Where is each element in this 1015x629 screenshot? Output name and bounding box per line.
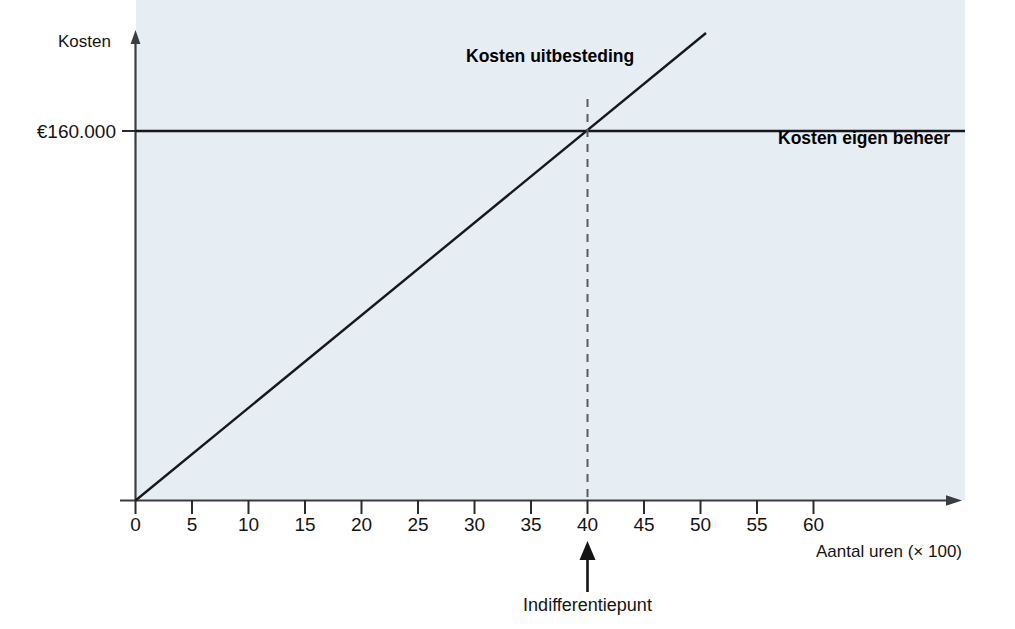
x-tick-label-45: 45 (633, 514, 654, 535)
y-axis-title: Kosten (58, 32, 111, 51)
x-tick-label-5: 5 (187, 514, 198, 535)
label-kosten-eigen-beheer: Kosten eigen beheer (778, 128, 950, 148)
x-axis-ticks (136, 500, 814, 514)
indifference-point-label: Indifferentiepunt (523, 595, 652, 615)
cost-comparison-chart: 0 5 10 15 20 25 30 35 40 45 50 55 60 €16… (0, 0, 1015, 629)
indifference-arrow-icon (580, 541, 596, 592)
x-tick-label-20: 20 (351, 514, 372, 535)
x-tick-label-30: 30 (464, 514, 485, 535)
x-tick-label-55: 55 (746, 514, 767, 535)
plot-background (136, 0, 965, 500)
chart-svg: 0 5 10 15 20 25 30 35 40 45 50 55 60 €16… (0, 0, 1015, 629)
x-tick-label-25: 25 (407, 514, 428, 535)
x-axis-title: Aantal uren (× 100) (816, 542, 962, 561)
x-tick-label-60: 60 (803, 514, 824, 535)
x-tick-label-10: 10 (238, 514, 259, 535)
y-tick-label-160000: €160.000 (37, 121, 116, 142)
x-tick-label-40: 40 (577, 514, 598, 535)
x-tick-label-15: 15 (294, 514, 315, 535)
label-kosten-uitbesteding: Kosten uitbesteding (466, 46, 634, 66)
x-tick-label-50: 50 (690, 514, 711, 535)
x-tick-label-0: 0 (130, 514, 141, 535)
x-tick-label-35: 35 (520, 514, 541, 535)
